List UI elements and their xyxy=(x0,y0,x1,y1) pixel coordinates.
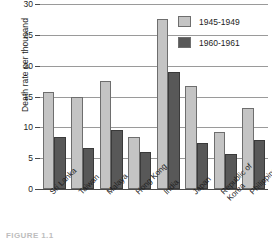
legend-item-1945-1949: 1945-1949 xyxy=(178,16,270,27)
x-axis-category-labels: Sri LankaTaiwanMalayaHong KongIndiaJapan… xyxy=(40,190,268,238)
y-tick-label: 10 xyxy=(24,122,33,132)
legend-label: 1960-1961 xyxy=(198,38,241,48)
y-tick-label: 20 xyxy=(24,61,33,71)
legend-item-1960-1961: 1960-1961 xyxy=(178,37,270,48)
legend-swatch-icon xyxy=(178,16,191,27)
y-tick-label: 25 xyxy=(24,30,33,40)
y-tick-label: 0 xyxy=(28,184,33,194)
y-tick-label: 5 xyxy=(28,153,33,163)
figure-caption: FIGURE 1.1 xyxy=(6,231,54,238)
bar-chart-figure: Death rate per thousand 051015202530 Sri… xyxy=(0,0,272,238)
bar-republic-of-korea-1945-1949 xyxy=(214,132,226,189)
bar-sri-lanka-1945-1949 xyxy=(43,92,55,189)
legend-swatch-icon xyxy=(178,37,191,48)
legend-label: 1945-1949 xyxy=(198,17,241,27)
bar-malaya-1945-1949 xyxy=(100,81,112,189)
bar-hong-kong-1945-1949 xyxy=(128,137,140,189)
y-tick-label: 30 xyxy=(24,0,33,9)
chart-legend: 1945-19491960-1961 xyxy=(178,16,270,58)
bar-india-1960-1961 xyxy=(168,72,180,189)
y-tick-label: 15 xyxy=(24,92,33,102)
bar-japan-1945-1949 xyxy=(185,86,197,189)
